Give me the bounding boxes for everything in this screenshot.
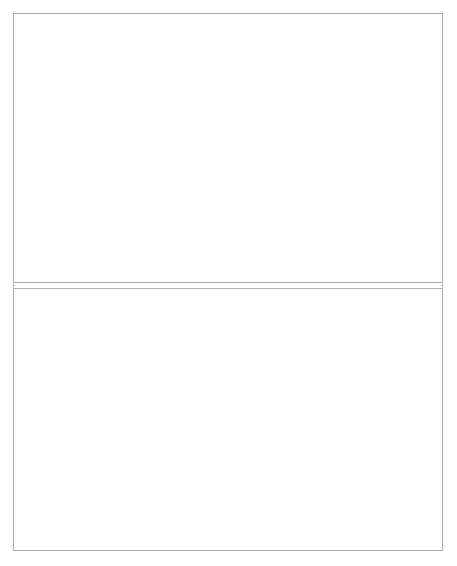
wh-movement-plot (14, 14, 442, 282)
np-movement-plot (14, 289, 442, 550)
panel-np-movement (13, 288, 443, 551)
panel-wh-movement (13, 13, 443, 283)
